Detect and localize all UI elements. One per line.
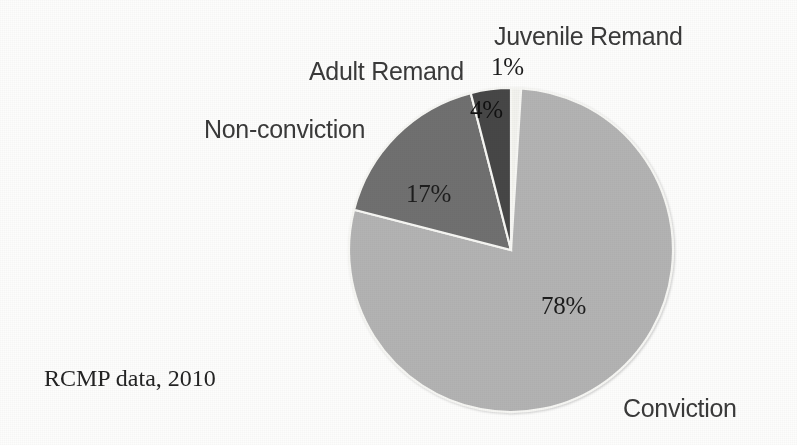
pie-label-conviction: Conviction <box>623 394 737 423</box>
pie-chart-figure: Juvenile Remand Adult Remand Non-convict… <box>0 0 797 445</box>
pie-label-non-conviction: Non-conviction <box>204 115 365 144</box>
pie-label-juvenile-remand: Juvenile Remand <box>494 22 683 51</box>
pie-value-juvenile-remand: 1% <box>491 53 524 81</box>
source-note: RCMP data, 2010 <box>44 365 216 392</box>
pie-value-conviction: 78% <box>541 292 586 320</box>
pie-label-adult-remand: Adult Remand <box>309 57 464 86</box>
pie-value-adult-remand: 4% <box>470 96 503 124</box>
pie-value-non-conviction: 17% <box>406 180 451 208</box>
